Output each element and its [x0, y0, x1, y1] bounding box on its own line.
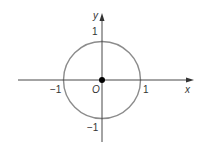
x-axis-arrow-icon	[186, 78, 194, 83]
x-axis-label: x	[184, 84, 191, 95]
y-tick-neg: −1	[87, 122, 99, 133]
x-tick-neg: −1	[50, 84, 62, 95]
x-tick-pos: 1	[143, 84, 149, 95]
unit-circle-diagram: y x O 1 −1 1 −1	[0, 0, 203, 151]
origin-point	[99, 77, 105, 83]
y-tick-pos: 1	[92, 26, 98, 37]
origin-label: O	[92, 84, 100, 95]
y-axis-arrow-icon	[100, 13, 105, 21]
y-axis-label: y	[92, 10, 99, 21]
